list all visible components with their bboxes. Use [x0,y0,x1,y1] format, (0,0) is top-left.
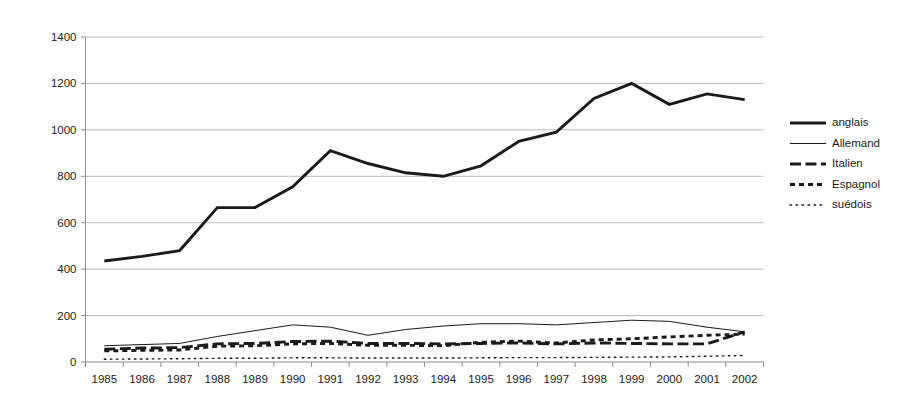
x-axis-tick-label: 1996 [506,373,532,385]
y-axis-tick-label: 0 [70,356,76,368]
y-axis-tick-label: 400 [57,263,76,275]
legend: anglaisAllemandItalienEspagnolsuédois [790,116,880,210]
y-tick-labels-group: 0200400600800100012001400 [51,31,77,368]
x-axis-tick-label: 1993 [393,373,419,385]
x-axis-tick-label: 2001 [694,373,720,385]
y-axis-tick-label: 1200 [51,77,77,89]
legend-label: Espagnol [832,178,880,190]
legend-label: suédois [832,198,872,210]
x-axis-tick-label: 1989 [242,373,268,385]
chart-canvas: 0200400600800100012001400 19851986198719… [0,0,919,406]
x-axis-tick-label: 1991 [318,373,344,385]
x-axis-tick-label: 1986 [129,373,155,385]
line-chart: 0200400600800100012001400 19851986198719… [0,0,919,406]
legend-label: Italien [832,157,863,169]
x-axis-tick-label: 1998 [581,373,607,385]
y-axis-tick-label: 1400 [51,31,77,43]
legend-label: Allemand [832,137,880,149]
y-axis-tick-label: 1000 [51,124,77,136]
y-axis-tick-label: 600 [57,217,76,229]
legend-label: anglais [832,116,869,128]
series-line-italien [104,332,744,349]
x-axis-tick-label: 1992 [355,373,381,385]
x-axis [86,362,764,367]
gridlines-group [86,37,764,316]
x-axis-tick-label: 1990 [280,373,306,385]
x-axis-tick-label: 1994 [431,373,457,385]
x-axis-tick-label: 1985 [92,373,118,385]
series-group [104,83,744,359]
series-line-su-dois [104,356,744,360]
x-axis-tick-label: 1987 [167,373,193,385]
series-line-allemand [104,320,744,346]
x-axis-tick-label: 1999 [619,373,645,385]
x-axis-tick-label: 1988 [205,373,231,385]
y-axis [81,37,86,362]
x-axis-tick-label: 1995 [468,373,494,385]
x-axis-tick-label: 2002 [732,373,758,385]
y-axis-tick-label: 200 [57,310,76,322]
series-line-anglais [104,83,744,261]
x-axis-tick-label: 2000 [657,373,683,385]
x-axis-tick-label: 1997 [544,373,570,385]
y-axis-tick-label: 800 [57,170,76,182]
x-tick-labels-group: 1985198619871988198919901991199219931994… [92,373,758,385]
